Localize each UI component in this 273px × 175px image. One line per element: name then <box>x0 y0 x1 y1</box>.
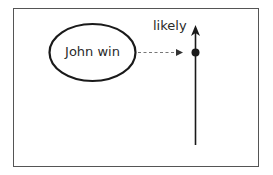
node-label: John win <box>49 45 136 58</box>
axis-label: likely <box>153 19 187 32</box>
diagram-canvas <box>0 0 273 175</box>
axis-point-dot <box>192 49 200 57</box>
dashed-connector-arrowhead-icon <box>176 49 183 56</box>
